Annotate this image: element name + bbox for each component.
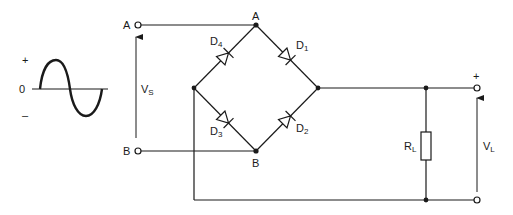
diode-bridge: D4 D1 D3 D2 A B bbox=[192, 10, 321, 169]
output-terminal-positive bbox=[474, 85, 480, 91]
input-section: A B VS bbox=[123, 19, 256, 157]
load-resistor bbox=[421, 132, 431, 160]
d4-label: D4 bbox=[210, 35, 223, 49]
terminal-a-label: A bbox=[123, 19, 131, 31]
node-a-label: A bbox=[252, 10, 260, 22]
node-b-label: B bbox=[252, 157, 259, 169]
sine-waveform: + 0 – bbox=[19, 54, 108, 121]
terminal-a bbox=[135, 22, 141, 28]
waveform-plus-label: + bbox=[22, 54, 28, 66]
output-terminal-negative bbox=[474, 197, 480, 203]
terminal-b bbox=[135, 148, 141, 154]
rl-label: RL bbox=[404, 140, 417, 154]
bridge-rectifier-diagram: + 0 – A B VS D4 bbox=[0, 0, 513, 215]
terminal-b-label: B bbox=[123, 145, 130, 157]
output-plus-label: + bbox=[473, 70, 479, 82]
output-section: RL + VL bbox=[194, 70, 495, 203]
waveform-zero-label: 0 bbox=[19, 83, 25, 95]
node-b-dot bbox=[253, 148, 258, 153]
vl-label: VL bbox=[483, 140, 495, 154]
vs-label: VS bbox=[141, 83, 154, 97]
waveform-minus-label: – bbox=[22, 109, 29, 121]
node-a-dot bbox=[253, 22, 258, 27]
d1-label: D1 bbox=[296, 39, 309, 53]
d2-label: D2 bbox=[296, 122, 309, 136]
d3-label: D3 bbox=[210, 125, 223, 139]
